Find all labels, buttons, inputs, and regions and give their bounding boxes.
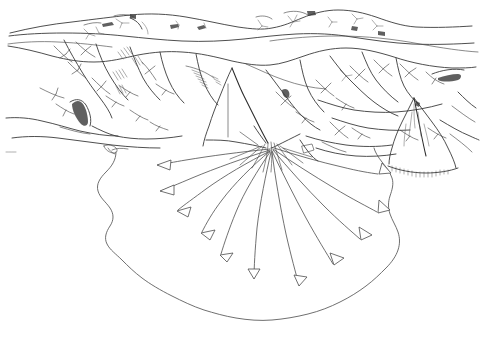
figure-canvas [0, 0, 481, 350]
canvas-background [0, 0, 481, 350]
alluvial-fan-figure: Distant ridge skyline Left mountain fron… [0, 0, 481, 350]
